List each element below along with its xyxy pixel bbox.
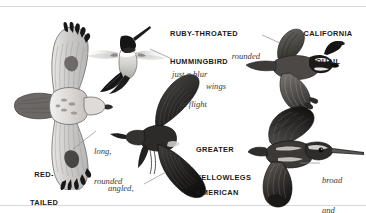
annotation-line: just a blur	[172, 69, 207, 79]
species-label-line: AMERICAN	[196, 188, 276, 197]
annotation-broad-and-blunt: broad and blunt	[322, 155, 342, 213]
top-divider-rule	[0, 6, 366, 7]
species-label-line: CALIFORNIA	[292, 29, 364, 38]
annotation-line: and	[322, 205, 342, 213]
annotation-line: angled,	[108, 183, 134, 193]
illustration-plate: RED- TAILED HAWK	[0, 0, 366, 213]
species-label-line: TAILED	[18, 198, 70, 207]
annotation-rounded-wings: rounded wings	[204, 31, 260, 111]
annotation-line: broad	[322, 175, 342, 185]
annotation-line: long,	[94, 146, 122, 156]
annotation-blur-in-flight: just a blur in flight	[172, 49, 207, 129]
annotation-line: rounded	[204, 51, 260, 61]
species-label-american-woodcock: AMERICAN WOODCOCK	[196, 170, 276, 213]
annotation-line: in flight	[172, 99, 207, 109]
species-label-california-quail: CALIFORNIA QUAIL	[292, 11, 364, 85]
annotation-angled-pointed: angled, pointed	[108, 163, 134, 213]
species-label-red-tailed-hawk: RED- TAILED HAWK	[18, 152, 70, 213]
species-label-line: QUAIL	[292, 57, 364, 66]
species-label-line: RED-	[18, 170, 70, 179]
annotation-line: wings	[204, 81, 260, 91]
